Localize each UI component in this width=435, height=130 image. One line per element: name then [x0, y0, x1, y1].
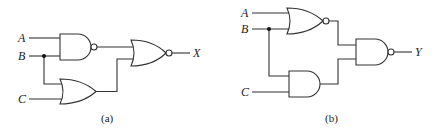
nand-gate-a [60, 34, 91, 60]
wire-a-or-out [96, 59, 134, 92]
nand-gate-b [356, 39, 388, 65]
and-gate-b [289, 71, 320, 97]
input-label-b-A: A [240, 6, 249, 20]
output-label-X: X [192, 46, 201, 60]
nor-gate-a [131, 40, 166, 66]
output-label-Y: Y [415, 45, 423, 59]
input-label-b-C: C [241, 85, 250, 99]
inversion-bubble-a-nor [166, 50, 172, 56]
inversion-bubble-b-nor [323, 18, 329, 24]
input-label-a-A: A [17, 31, 26, 45]
circuit-a: A B C X (a) [17, 31, 201, 125]
nor-gate-b [287, 8, 323, 34]
input-label-a-C: C [18, 92, 27, 106]
input-label-a-B: B [18, 49, 26, 63]
circuit-b: A B C Y (b) [240, 6, 423, 125]
junction-dot-a [42, 54, 46, 58]
wire-b-B-branch [269, 29, 289, 76]
wire-b-nor-out [329, 21, 356, 45]
wire-b-and-out [320, 59, 356, 84]
logic-diagram: A B C X (a) A B C [0, 0, 435, 130]
caption-a: (a) [101, 112, 114, 125]
inversion-bubble-a-nand [91, 44, 97, 50]
or-gate-a [60, 79, 96, 104]
input-label-b-B: B [241, 22, 249, 36]
caption-b: (b) [325, 112, 338, 125]
junction-dot-b [267, 27, 271, 31]
inversion-bubble-b-nand [388, 49, 394, 55]
